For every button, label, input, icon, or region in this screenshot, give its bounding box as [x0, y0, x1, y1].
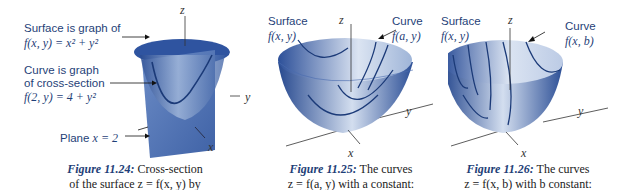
curve-label-11-26: Curve	[565, 20, 596, 33]
caption-line1: Cross-section	[135, 162, 203, 176]
caption-line1: The curves	[357, 162, 413, 176]
figure-number: Figure 11.25:	[289, 162, 356, 176]
caption-11-24: Figure 11.24: Cross-section of the surfa…	[60, 162, 210, 190]
surface-label-11-25: Surface	[268, 15, 308, 28]
y-axis-label-11-25: y	[406, 104, 411, 119]
x-axis-label-11-26: x	[521, 146, 526, 161]
figure-number: Figure 11.26:	[466, 162, 533, 176]
figure-number: Figure 11.24:	[67, 162, 134, 176]
y-axis-label-11-26: y	[578, 104, 583, 119]
caption-11-26: Figure 11.26: The curves z = f(x, b) wit…	[453, 162, 603, 190]
caption-line2: z = f(a, y) with a constant:	[276, 177, 426, 190]
caption-line1: The curves	[534, 162, 590, 176]
curve-formula-11-25: f(a, y)	[392, 30, 421, 43]
curve-formula-11-26: f(x, b)	[565, 35, 594, 48]
x-axis-label: x	[208, 140, 213, 155]
surface-formula-11-26: f(x, y)	[441, 30, 469, 43]
surface-label: Surface is graph of	[24, 22, 121, 35]
surface-label-11-26: Surface	[441, 15, 481, 28]
plane-formula: x = 2	[93, 131, 118, 145]
plane-text: Plane	[60, 132, 93, 144]
caption-line2: of the surface z = f(x, y) by	[60, 177, 210, 190]
curve-label-line2: of cross-section	[24, 77, 105, 90]
curve-formula: f(2, y) = 4 + y²	[24, 91, 96, 104]
curve-label-line1: Curve is graph	[24, 64, 99, 77]
surface-formula: f(x, y) = x² + y²	[24, 37, 98, 50]
surface-formula-11-25: f(x, y)	[268, 30, 296, 43]
plane-label: Plane x = 2	[60, 130, 118, 145]
caption-11-25: Figure 11.25: The curves z = f(a, y) wit…	[276, 162, 426, 190]
z-axis-label-11-25: z	[339, 13, 344, 28]
curve-label-11-25: Curve	[392, 15, 423, 28]
y-axis-label-11-24: y	[245, 90, 250, 105]
caption-line2: z = f(x, b) with b constant:	[453, 177, 603, 190]
z-axis-label-11-26: z	[508, 13, 513, 28]
x-axis-label-11-25: x	[348, 146, 353, 161]
z-axis-label: z	[180, 3, 185, 18]
figure-11-24: Surface is graph of f(x, y) = x² + y² Cu…	[0, 0, 210, 190]
